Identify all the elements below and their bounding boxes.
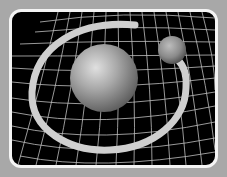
- spacetime-graphic: [12, 12, 215, 165]
- small-sphere: [158, 36, 186, 64]
- image-frame: [9, 9, 218, 168]
- illustration: [0, 0, 227, 177]
- large-sphere: [70, 44, 138, 112]
